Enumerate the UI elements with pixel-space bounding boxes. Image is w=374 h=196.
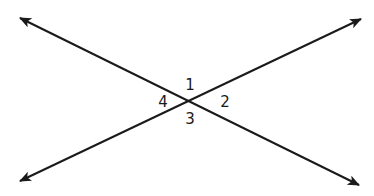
angle-label-1: 1 bbox=[185, 76, 195, 94]
angle-label-4: 4 bbox=[158, 93, 168, 111]
angle-label-3: 3 bbox=[185, 110, 195, 128]
intersecting-lines-diagram: 1 2 3 4 bbox=[0, 0, 374, 196]
angle-label-2: 2 bbox=[220, 93, 230, 111]
